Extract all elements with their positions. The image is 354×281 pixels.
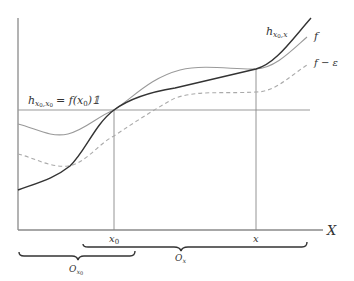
curve-f (18, 37, 307, 135)
curve-f-minus-epsilon (18, 65, 307, 166)
label-f: f (313, 30, 320, 43)
brace-O-x0 (19, 251, 135, 260)
diagram-canvas: X x0 x Ox0 Ox f f − ε hx0,x hx0,x0= f(x0… (0, 0, 354, 281)
label-f-minus-epsilon: f − ε (313, 57, 338, 68)
tick-label-x: x (253, 233, 259, 244)
tick-label-x0: x0 (109, 233, 119, 246)
label-O-x0: Ox0 (69, 264, 83, 276)
x-axis-label: X (326, 223, 337, 238)
label-h-x0-x: hx0,x (266, 25, 288, 39)
label-h-x0-x0: hx0,x0= f(x0)𝟙 (28, 94, 100, 108)
label-O-x: Ox (175, 253, 186, 265)
